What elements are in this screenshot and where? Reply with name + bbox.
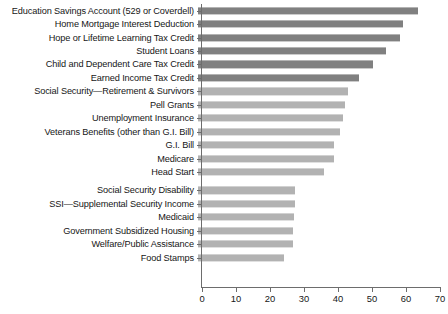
bar-row: SSI—Supplemental Security Income [0, 197, 448, 210]
bar [198, 88, 348, 95]
category-label: Unemployment Insurance [0, 113, 198, 123]
bar [198, 155, 334, 162]
category-label: SSI—Supplemental Security Income [0, 199, 198, 209]
bar-cell [198, 251, 448, 264]
category-label: Welfare/Public Assistance [0, 239, 198, 249]
bar [198, 241, 293, 248]
category-tick [197, 118, 202, 119]
value-axis-line [202, 287, 440, 288]
bar-cell [198, 44, 448, 57]
category-tick [197, 159, 202, 160]
category-label: Government Subsidized Housing [0, 226, 198, 236]
x-axis-tick [304, 287, 305, 292]
bar [198, 254, 284, 261]
bar-cell [198, 211, 448, 224]
x-axis-tick-label: 10 [231, 293, 241, 304]
bar [198, 101, 345, 108]
bar-row: Social Security Disability [0, 184, 448, 197]
category-tick [197, 132, 202, 133]
bar-cell [198, 71, 448, 84]
x-axis-tick-label: 70 [435, 293, 445, 304]
x-axis-tick-label: 30 [299, 293, 309, 304]
x-axis-tick [406, 287, 407, 292]
category-tick [197, 24, 202, 25]
bar [198, 34, 400, 41]
bar-cell [198, 138, 448, 151]
bar-cell [198, 58, 448, 71]
category-tick [197, 91, 202, 92]
bar-row: Medicare [0, 152, 448, 165]
category-tick [197, 64, 202, 65]
x-axis-tick-label: 60 [401, 293, 411, 304]
category-label: Child and Dependent Care Tax Credit [0, 59, 198, 69]
bar [198, 214, 294, 221]
bar [198, 7, 418, 14]
bar-cell [198, 98, 448, 111]
bar [198, 21, 403, 28]
bar [198, 61, 373, 68]
x-axis-tick [202, 287, 203, 292]
category-tick [197, 172, 202, 173]
bar-row: Welfare/Public Assistance [0, 237, 448, 250]
bar-row: Home Mortgage Interest Deduction [0, 17, 448, 30]
bar-cell [198, 224, 448, 237]
bar [198, 142, 334, 149]
category-label: Food Stamps [0, 253, 198, 263]
bar-row: Social Security—Retirement & Survivors [0, 85, 448, 98]
bar-cell [198, 4, 448, 17]
category-label: Veterans Benefits (other than G.I. Bill) [0, 127, 198, 137]
x-axis-tick [270, 287, 271, 292]
bar [198, 187, 295, 194]
bar-row: Student Loans [0, 44, 448, 57]
x-axis-tick-label: 50 [367, 293, 377, 304]
x-axis-tick [338, 287, 339, 292]
x-axis-tick [236, 287, 237, 292]
bar [198, 115, 343, 122]
category-label: Home Mortgage Interest Deduction [0, 19, 198, 29]
bar-rows: Education Savings Account (529 or Coverd… [0, 4, 448, 264]
category-label: Social Security—Retirement & Survivors [0, 86, 198, 96]
bar-row: Veterans Benefits (other than G.I. Bill) [0, 125, 448, 138]
category-tick [197, 78, 202, 79]
category-tick [197, 145, 202, 146]
bar-row: Hope or Lifetime Learning Tax Credit [0, 31, 448, 44]
bar [198, 47, 386, 54]
category-tick [197, 244, 202, 245]
category-label: Hope or Lifetime Learning Tax Credit [0, 33, 198, 43]
bar-chart: Education Savings Account (529 or Coverd… [0, 0, 448, 314]
category-label: Earned Income Tax Credit [0, 73, 198, 83]
category-tick [197, 204, 202, 205]
bar-row: Head Start [0, 165, 448, 178]
bar-cell [198, 165, 448, 178]
bar-cell [198, 197, 448, 210]
bar-cell [198, 237, 448, 250]
bar [198, 128, 340, 135]
bar-cell [198, 152, 448, 165]
bar-cell [198, 125, 448, 138]
category-tick [197, 217, 202, 218]
bar-row: Education Savings Account (529 or Coverd… [0, 4, 448, 17]
category-tick [197, 190, 202, 191]
category-tick [197, 258, 202, 259]
bar-row: Unemployment Insurance [0, 112, 448, 125]
bar-cell [198, 85, 448, 98]
category-label: Medicare [0, 154, 198, 164]
category-label: Education Savings Account (529 or Coverd… [0, 6, 198, 16]
bar-row: Government Subsidized Housing [0, 224, 448, 237]
category-label: Student Loans [0, 46, 198, 56]
category-tick [197, 51, 202, 52]
category-tick [197, 105, 202, 106]
category-label: Head Start [0, 167, 198, 177]
x-axis-tick [372, 287, 373, 292]
x-axis-tick-label: 0 [199, 293, 204, 304]
bar-row: Child and Dependent Care Tax Credit [0, 58, 448, 71]
category-tick [197, 38, 202, 39]
bar-row: Food Stamps [0, 251, 448, 264]
category-label: Medicaid [0, 212, 198, 222]
bar-row: G.I. Bill [0, 138, 448, 151]
bar-row: Pell Grants [0, 98, 448, 111]
bar-row: Earned Income Tax Credit [0, 71, 448, 84]
bar-cell [198, 17, 448, 30]
category-label: Social Security Disability [0, 185, 198, 195]
bar-row: Medicaid [0, 211, 448, 224]
